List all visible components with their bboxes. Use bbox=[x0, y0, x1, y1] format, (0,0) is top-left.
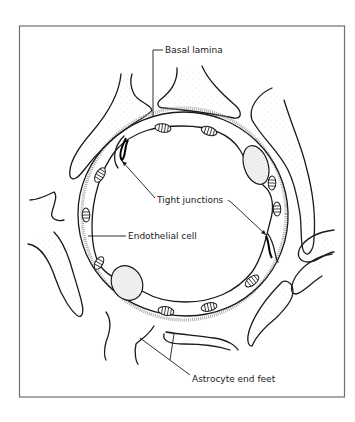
basal-lamina-label: Basal lamina bbox=[165, 45, 223, 55]
astrocyte-end-feet-label: Astrocyte end feet bbox=[192, 374, 276, 384]
endothelial-cell-layer bbox=[78, 112, 288, 316]
label-tight-junctions: Tight junctions bbox=[122, 161, 266, 235]
endothelial-cell-label: Endothelial cell bbox=[128, 231, 197, 241]
capillary-diagram: Basal lamina Tight junctions Endothelial… bbox=[0, 0, 355, 422]
endothelial-nucleus bbox=[105, 260, 149, 306]
label-endothelial-cell: Endothelial cell bbox=[88, 231, 197, 241]
tight-junctions-label: Tight junctions bbox=[156, 195, 224, 205]
